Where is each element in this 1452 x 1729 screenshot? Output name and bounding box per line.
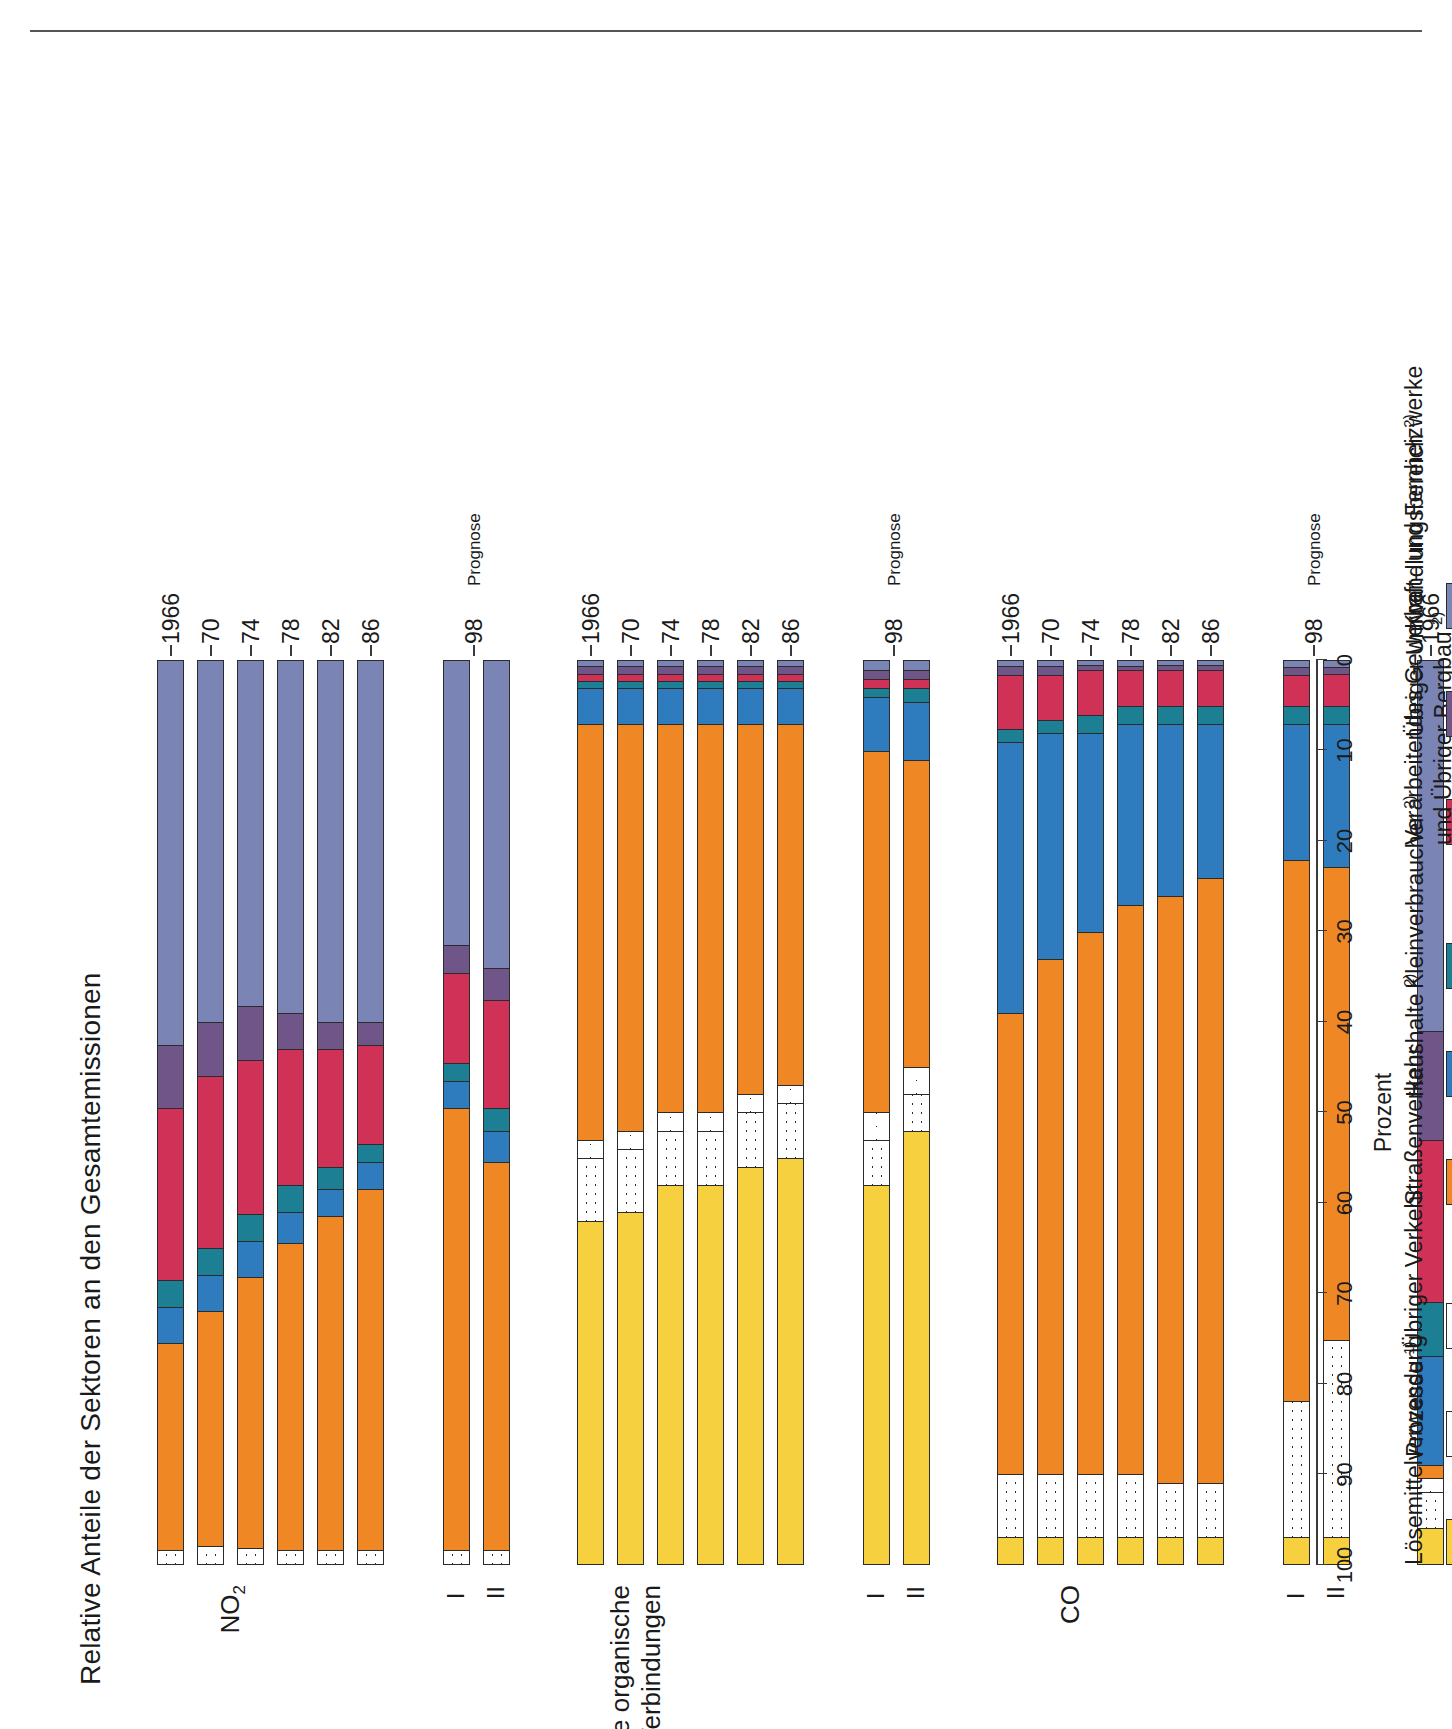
segment-haushalte [198,1275,223,1311]
bar-no_2-82 [317,660,344,1565]
axis-tick [1316,1383,1327,1384]
segment-haushalte [904,701,929,760]
bar-co-86 [1197,660,1224,1565]
segment-prozesse [578,1157,603,1220]
axis-tick-label: 30 [1332,901,1358,961]
segment-haushalte [1158,724,1183,896]
segment-strassenverkehr [1038,959,1063,1474]
segment-haushalte [238,1240,263,1276]
legend-swatch-kleinverbraucher [1446,943,1452,989]
bar-no_2-98-I [443,660,470,1565]
year-label: 1966 [158,592,185,643]
segment-kleinverbraucher [778,680,803,687]
segment-kleinverbraucher [998,728,1023,742]
segment-strassenverkehr [358,1189,383,1550]
segment-loesemittel [904,1130,929,1563]
segment-strassenverkehr [1078,931,1103,1473]
segment-haushalte [1284,724,1309,859]
axis-tick-label: 90 [1332,1444,1358,1504]
segment-verarbeitendes_gewerbe [238,1060,263,1214]
segment-prozesse [998,1473,1023,1536]
year-label: 78 [698,618,725,644]
segment-haushalte [618,688,643,724]
segment-kraftwerke [1284,661,1309,667]
axis-tick-label: 100 [1332,1535,1358,1595]
segment-kleinverbraucher [318,1166,343,1189]
segment-haushalte [998,742,1023,1013]
segment-prozesse [738,1112,763,1166]
year-label: 74 [238,618,265,644]
legend-swatch-umwandlungsbereich [1446,691,1452,737]
forecast-caption: Prognose [465,513,485,586]
year-label: 70 [1038,618,1065,644]
segment-kleinverbraucher [444,1062,469,1080]
year-tick [750,645,752,656]
segment-strassenverkehr [318,1216,343,1550]
segment-haushalte [658,688,683,724]
variant-mark-I: I [1283,1592,1310,1598]
variant-mark-I: I [863,1592,890,1598]
segment-strassenverkehr [698,724,723,1112]
legend-label-haushalte: Haushalte 2) [1400,973,1429,1096]
segment-umwandlungsbereich [1284,667,1309,674]
segment-loesemittel [1158,1536,1183,1563]
bar-no_2-98-II [483,660,510,1565]
axis-tick-label: 10 [1332,720,1358,780]
bar-voc-70 [617,660,644,1565]
segment-umwandlungsbereich [618,666,643,673]
year-tick [250,645,252,656]
panel-title-voc: Flüchtige organischeVerbindungen [605,1585,667,1729]
bar-voc-74 [657,660,684,1565]
segment-strassenverkehr [658,724,683,1112]
segment-umwandlungsbereich [698,666,723,673]
variant-mark-II: II [903,1586,930,1599]
segment-umwandlungsbereich [358,1022,383,1045]
segment-kleinverbraucher [698,680,723,687]
segment-kraftwerke [1118,661,1143,666]
segment-strassenverkehr [158,1342,183,1550]
segment-verarbeitendes_gewerbe [618,673,643,680]
segment-uebriger_verkehr [618,1130,643,1148]
segment-kleinverbraucher [278,1184,303,1211]
segment-verarbeitendes_gewerbe [864,679,889,688]
segment-kleinverbraucher [578,680,603,687]
segment-prozesse [1158,1482,1183,1536]
axis-tick-label: 40 [1332,992,1358,1052]
segment-kleinverbraucher [1284,706,1309,724]
panel-title-no_2: NO2 [215,1585,250,1729]
segment-verarbeitendes_gewerbe [1198,670,1223,706]
year-label: 70 [618,618,645,644]
bar-co-82 [1157,660,1184,1565]
axis-label-prozent: Prozent [1370,1062,1397,1162]
year-label: 82 [318,618,345,644]
legend-swatch-strassenverkehr [1446,1159,1452,1205]
axis-tick-label: 80 [1332,1354,1358,1414]
legend-label-prozesse: Prozesse 1) [1400,1341,1429,1457]
segment-prozesse [158,1550,183,1564]
segment-kraftwerke [198,661,223,1022]
segment-kraftwerke [578,661,603,666]
segment-kraftwerke [278,661,303,1013]
legend-swatch-kraftwerke [1446,583,1452,629]
year-tick [1090,645,1092,656]
segment-loesemittel [1038,1536,1063,1563]
segment-kraftwerke [444,661,469,945]
segment-strassenverkehr [1198,877,1223,1482]
segment-umwandlungsbereich [484,968,509,1000]
segment-verarbeitendes_gewerbe [738,673,763,680]
segment-haushalte [738,688,763,724]
segment-loesemittel [1078,1536,1103,1563]
segment-uebriger_verkehr [864,1112,889,1139]
year-label: 74 [1078,618,1105,644]
segment-strassenverkehr [904,760,929,1067]
forecast-year-label: 98 [881,618,908,644]
segment-verarbeitendes_gewerbe [904,679,929,688]
axis-tick-label: 50 [1332,1082,1358,1142]
axis-tick [1316,1473,1327,1474]
forecast-year-label: 98 [1301,618,1328,644]
segment-haushalte [318,1189,343,1216]
segment-umwandlungsbereich [1118,665,1143,670]
year-tick [790,645,792,656]
segment-strassenverkehr [738,724,763,1094]
segment-prozesse [1078,1473,1103,1536]
